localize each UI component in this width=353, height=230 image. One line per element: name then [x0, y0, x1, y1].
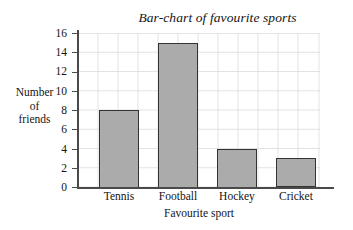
y-tick-label-16: 16 [21, 28, 67, 40]
bar-football [158, 43, 198, 188]
chart-title: Bar-chart of favourite sports [95, 10, 340, 26]
y-tick-label-14: 14 [21, 47, 67, 59]
bar-hockey [217, 149, 257, 188]
y-tick-label-10: 10 [21, 86, 67, 98]
x-axis-title: Favourite sport [78, 207, 320, 219]
y-axis-line [77, 30, 79, 188]
y-tick-label-8: 8 [21, 105, 67, 117]
y-tick-label-0: 0 [21, 182, 67, 194]
bar-tennis [99, 110, 139, 188]
y-tick-label-2: 2 [21, 163, 67, 175]
y-tick-label-6: 6 [21, 124, 67, 136]
x-tick-label-cricket: Cricket [260, 190, 332, 203]
bar-cricket [276, 158, 316, 187]
y-tick-label-12: 12 [21, 66, 67, 78]
y-tick-label-4: 4 [21, 144, 67, 156]
bar-chart-figure: Bar-chart of favourite sports Number of … [0, 0, 353, 230]
x-axis-line [77, 187, 334, 189]
